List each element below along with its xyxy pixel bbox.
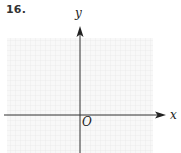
x-axis-label: x <box>170 108 177 122</box>
coordinate-plane: y x O <box>0 0 181 153</box>
origin-label: O <box>82 115 92 129</box>
y-axis-label: y <box>74 6 82 20</box>
